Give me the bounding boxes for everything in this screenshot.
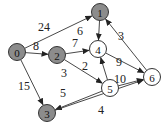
node-label: 4 — [95, 44, 101, 56]
edge-6-to-1 — [106, 19, 147, 70]
edge-weight-label: 9 — [116, 55, 122, 69]
edge-4-to-6 — [106, 53, 144, 73]
edge-weight-label: 8 — [33, 39, 39, 53]
node-6: 6 — [144, 69, 161, 86]
node-2: 2 — [49, 47, 66, 64]
node-4: 4 — [90, 41, 107, 58]
edge-weight-label: 3 — [118, 29, 124, 43]
node-label: 1 — [97, 7, 103, 19]
node-label: 3 — [44, 108, 50, 120]
edge-2-to-4 — [65, 50, 89, 53]
edge-weight-label: 5 — [60, 86, 66, 100]
edge-weight-label: 4 — [98, 103, 104, 117]
weighted-digraph: 248156732510943 0123456 — [0, 0, 167, 136]
edge-1-to-4 — [98, 20, 99, 40]
node-label: 0 — [14, 47, 20, 59]
graph-canvas: 248156732510943 0123456 — [0, 0, 167, 136]
node-3: 3 — [39, 105, 56, 122]
node-label: 6 — [149, 72, 155, 84]
edge-weight-label: 2 — [82, 59, 88, 73]
node-0: 0 — [9, 44, 26, 61]
node-1: 1 — [92, 4, 109, 21]
edge-weight-label: 3 — [61, 66, 67, 80]
node-5: 5 — [102, 80, 119, 97]
edge-weight-label: 24 — [38, 20, 50, 34]
edge-weight-label: 15 — [18, 79, 30, 93]
edge-weight-label: 7 — [72, 36, 78, 50]
node-label: 2 — [54, 50, 60, 62]
edge-5-to-4 — [101, 58, 108, 80]
node-label: 5 — [107, 83, 113, 95]
